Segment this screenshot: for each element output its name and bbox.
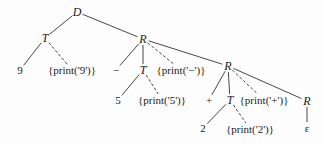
node-aminus: {print('−')}	[157, 65, 206, 76]
node-eps: ε	[305, 123, 310, 134]
node-a5: {print('5')}	[138, 95, 186, 106]
node-D: D	[73, 6, 82, 18]
edge-T2-n5	[122, 75, 139, 96]
node-a9: {print('9')}	[48, 65, 96, 76]
edge-T3-a2	[233, 105, 245, 123]
node-n2: 2	[200, 123, 206, 134]
node-T3: T	[227, 94, 234, 106]
node-R1: R	[139, 33, 146, 45]
parse-tree-diagram: DT9{print('9')}R−T{print('−')}5{print('5…	[0, 0, 323, 145]
node-minus: −	[113, 65, 119, 76]
edge-R2-plus	[212, 71, 225, 95]
edge-R1-aminus	[148, 43, 174, 64]
node-T1: T	[42, 32, 49, 44]
edge-R2-T3	[228, 72, 229, 94]
node-R2: R	[224, 60, 231, 72]
node-R3: R	[303, 95, 310, 107]
node-a2: {print('2')}	[226, 124, 274, 135]
edge-T3-n2	[207, 104, 226, 123]
node-n5: 5	[115, 95, 121, 106]
edge-D-T1	[50, 16, 73, 34]
edge-D-R1	[83, 14, 138, 36]
edge-T1-a9	[49, 43, 67, 64]
node-n9: 9	[17, 65, 23, 76]
edge-R1-minus	[120, 44, 139, 66]
node-plus: +	[206, 95, 212, 106]
node-T2: T	[140, 64, 147, 76]
edge-T2-a5	[146, 75, 158, 94]
node-aplus: {print('+')}	[240, 95, 289, 106]
edge-T1-n9	[24, 43, 42, 66]
